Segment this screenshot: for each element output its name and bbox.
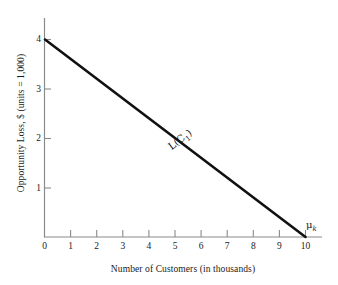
x-tick-label: 8 <box>245 241 261 251</box>
y-tick-marks <box>45 40 52 189</box>
y-tick-label: 1 <box>27 183 41 193</box>
x-tick-marks <box>71 230 306 237</box>
x-tick-label: 10 <box>298 241 314 251</box>
x-tick-label: 3 <box>115 241 131 251</box>
x-axis-title: Number of Customers (in thousands) <box>44 264 322 274</box>
mu-subscript: k <box>313 225 317 233</box>
y-tick-label: 4 <box>27 34 41 44</box>
x-tick-label: 0 <box>37 241 53 251</box>
x-tick-label: 4 <box>141 241 157 251</box>
x-tick-label: 7 <box>219 241 235 251</box>
x-tick-label: 9 <box>271 241 287 251</box>
x-tick-label: 1 <box>63 241 79 251</box>
x-tick-label: 6 <box>193 241 209 251</box>
mu-k-annotation: μk <box>306 219 317 233</box>
x-tick-label: 2 <box>89 241 105 251</box>
y-tick-label: 2 <box>27 133 41 143</box>
chart-figure: 4 3 2 1 0 1 2 3 4 5 6 7 8 9 10 Opportuni… <box>0 0 338 285</box>
y-axis-title: Opportunity Loss, $ (units = 1,000) <box>14 8 28 238</box>
x-tick-label: 5 <box>167 241 183 251</box>
y-tick-label: 3 <box>27 84 41 94</box>
